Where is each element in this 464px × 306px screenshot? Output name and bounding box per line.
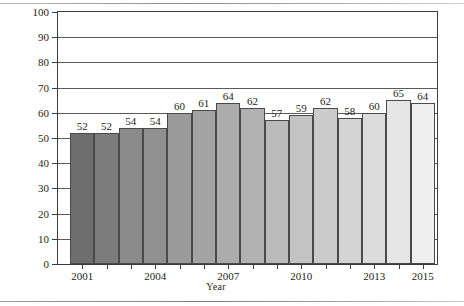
x-axis-tick xyxy=(180,264,181,269)
bar: 61 xyxy=(192,110,216,264)
bar-value-label: 58 xyxy=(344,106,355,119)
bar-value-label: 57 xyxy=(271,108,282,121)
y-axis-tick-label: 20 xyxy=(38,208,49,219)
y-axis-tick-label: 70 xyxy=(38,82,49,93)
x-axis-tick xyxy=(399,264,400,269)
bar: 52 xyxy=(94,133,118,264)
x-axis-tick xyxy=(277,264,278,269)
y-axis-tick-label: 60 xyxy=(38,107,49,118)
x-axis-tick xyxy=(82,264,83,269)
bar: 64 xyxy=(216,103,240,264)
y-axis-tick-label: 50 xyxy=(38,133,49,144)
x-axis-tick xyxy=(301,264,302,269)
bar-value-label: 54 xyxy=(125,116,136,129)
y-axis-tick-label: 0 xyxy=(44,259,50,270)
bar-value-label: 64 xyxy=(223,91,234,104)
y-axis-tick-label: 80 xyxy=(38,57,49,68)
bar-value-label: 60 xyxy=(174,101,185,114)
bar-value-label: 64 xyxy=(417,91,428,104)
x-axis-tick xyxy=(374,264,375,269)
bar-value-label: 52 xyxy=(101,121,112,134)
bar: 62 xyxy=(240,108,264,264)
y-axis-tick-label: 90 xyxy=(38,32,49,43)
x-axis-title: Year xyxy=(0,281,464,292)
x-axis-tick xyxy=(107,264,108,269)
bar-value-label: 54 xyxy=(150,116,161,129)
bar-value-label: 61 xyxy=(198,98,209,111)
x-axis-tick xyxy=(155,264,156,269)
bar: 57 xyxy=(265,120,289,264)
y-axis-tick-label: 30 xyxy=(38,183,49,194)
bar: 65 xyxy=(386,100,410,264)
bar: 52 xyxy=(70,133,94,264)
y-axis-tick-label: 100 xyxy=(33,7,50,18)
bar: 58 xyxy=(338,118,362,264)
bar: 60 xyxy=(167,113,191,264)
y-axis-tick-label: 10 xyxy=(38,233,49,244)
bar-value-label: 65 xyxy=(393,88,404,101)
x-axis-tick xyxy=(228,264,229,269)
x-axis-tick xyxy=(204,264,205,269)
y-axis-tick-label: 40 xyxy=(38,158,49,169)
bar: 64 xyxy=(411,103,435,264)
bar-series: 525254546061646257596258606564 xyxy=(58,12,437,264)
plot-area: 0102030405060708090100 52525454606164625… xyxy=(57,11,438,265)
bar-chart: Percentage 0102030405060708090100 525254… xyxy=(0,0,464,306)
bar-value-label: 62 xyxy=(320,96,331,109)
x-axis-tick xyxy=(131,264,132,269)
bar-value-label: 52 xyxy=(77,121,88,134)
bar: 54 xyxy=(143,128,167,264)
bar: 54 xyxy=(119,128,143,264)
x-axis-tick xyxy=(326,264,327,269)
x-axis-tick xyxy=(350,264,351,269)
bar-value-label: 59 xyxy=(296,103,307,116)
x-axis-tick xyxy=(253,264,254,269)
bar: 60 xyxy=(362,113,386,264)
bar: 59 xyxy=(289,115,313,264)
y-axis-tick xyxy=(52,264,58,265)
x-axis-title-text: Year xyxy=(206,281,226,292)
bar: 62 xyxy=(313,108,337,264)
bar-value-label: 60 xyxy=(369,101,380,114)
x-axis-tick xyxy=(423,264,424,269)
bar-value-label: 62 xyxy=(247,96,258,109)
